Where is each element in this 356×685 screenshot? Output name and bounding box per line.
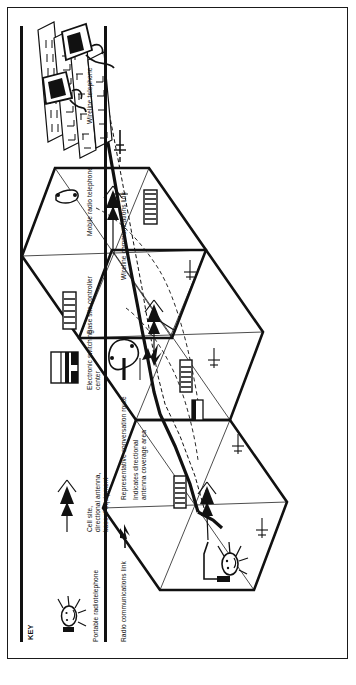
key-label-base-site-controller: Base site controller xyxy=(86,276,93,334)
base-site-controller-middle xyxy=(180,360,192,392)
rotated-artwork-canvas: KEY Portable radiotelephone xyxy=(8,8,349,660)
portable-radiotelephone-icon xyxy=(52,594,86,634)
page-border-frame: KEY Portable radiotelephone xyxy=(7,7,348,659)
switching-cabinet-middle xyxy=(192,400,203,420)
base-site-controller-icon xyxy=(62,290,78,330)
hexagonal-cell-middle xyxy=(79,250,263,420)
lightning-bolt-icon xyxy=(116,516,130,548)
key-label-cell-site-line1: Cell site, xyxy=(86,506,93,532)
key-label-cell-site-line2: directional antenna, xyxy=(94,472,101,532)
thick-solid-line-icon xyxy=(120,356,128,380)
key-label-esc-line1: Electronic switching xyxy=(86,330,93,390)
key-label-cell-site-line3: base rf equipment xyxy=(102,478,109,532)
directional-antenna-icon xyxy=(54,478,80,532)
base-site-controller-upper xyxy=(144,190,157,224)
base-site-controller-lower xyxy=(174,476,186,508)
key-label-mobile-radio-telephone: Mobile radio telephone xyxy=(86,167,93,236)
key-label-antenna-coverage-line2: antenna coverage area xyxy=(140,430,147,500)
antenna-coverage-tick-marks xyxy=(184,260,268,538)
dashed-crossbar-line-icon xyxy=(112,128,128,162)
wireline-telephone-icon xyxy=(42,70,86,118)
key-title: KEY xyxy=(26,624,35,640)
cell-site-antenna-middle xyxy=(145,300,174,360)
key-top-rule xyxy=(20,26,23,642)
figure-page: KEY Portable radiotelephone xyxy=(0,0,356,685)
thin-solid-line-icon xyxy=(136,356,144,380)
portable-radiotelephone-user xyxy=(204,542,248,582)
key-label-wireline-communications-link: Wireline communications link xyxy=(120,192,127,280)
key-bottom-rule xyxy=(104,26,107,642)
key-label-antenna-coverage-line1: Indicates directional xyxy=(132,440,139,500)
switching-center-icon xyxy=(50,350,80,384)
mobile-radio-telephone-icon xyxy=(50,182,82,208)
key-label-esc-line2: center xyxy=(94,371,101,390)
key-label-radio-communications-link: Radio communications link xyxy=(120,561,127,642)
key-label-wireline-telephone: Wireline telephone xyxy=(86,68,93,124)
key-label-portable-radiotelephone: Portable radiotelephone xyxy=(92,570,99,642)
key-label-representative-conversation-route: Representative conversation route xyxy=(120,396,127,500)
